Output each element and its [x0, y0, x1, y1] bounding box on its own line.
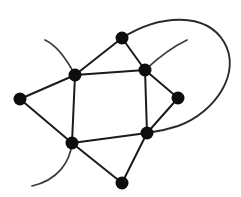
graph-vertex	[116, 177, 129, 190]
graph-edge	[145, 70, 147, 133]
graph-canvas	[0, 0, 241, 197]
graph-vertex	[116, 32, 129, 45]
graph-pendant-arc	[45, 40, 75, 75]
graph-vertex	[14, 93, 27, 106]
curved-edge-layer	[122, 20, 230, 133]
graph-pendant-arc	[145, 40, 187, 70]
straight-edge-layer	[20, 38, 178, 183]
graph-edge	[122, 133, 147, 183]
graph-edge	[72, 133, 147, 143]
graph-pendant-arc	[32, 143, 72, 186]
graph-vertex	[172, 92, 185, 105]
graph-vertex	[141, 127, 154, 140]
graph-vertex	[69, 69, 82, 82]
graph-edge	[75, 70, 145, 75]
graph-edge	[75, 38, 122, 75]
graph-vertex	[139, 64, 152, 77]
graph-curved-edge	[122, 20, 230, 133]
graph-edge	[72, 143, 122, 183]
graph-diagram	[0, 0, 241, 197]
graph-edge	[72, 75, 75, 143]
graph-edge	[20, 75, 75, 99]
graph-vertex	[66, 137, 79, 150]
graph-edge	[20, 99, 72, 143]
